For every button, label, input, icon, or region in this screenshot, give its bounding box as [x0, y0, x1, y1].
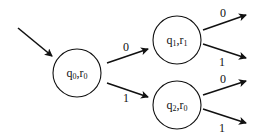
- state-subscript: 0: [84, 72, 88, 81]
- edge-label: 0: [220, 72, 226, 86]
- state-q2-r0: q2,r0: [153, 81, 201, 129]
- edge-label: 0: [123, 40, 129, 54]
- edge-label: 0: [220, 6, 226, 20]
- svg-text:q1,r1: q1,r1: [167, 33, 188, 48]
- edge-label: 1: [219, 55, 225, 69]
- state-q0-r0: q0,r0: [53, 49, 101, 97]
- state-subscript: 0: [184, 104, 188, 113]
- svg-text:q0,r0: q0,r0: [67, 66, 88, 81]
- initial-arrow: [18, 28, 52, 56]
- svg-text:q2,r0: q2,r0: [167, 98, 188, 113]
- state-subscript: 1: [184, 39, 188, 48]
- edge-label: 1: [219, 121, 225, 135]
- edge-label: 1: [123, 91, 129, 105]
- state-q1-r1: q1,r1: [153, 16, 201, 64]
- state-diagram: q0,r0 q1,r1 q2,r0 0 1 0 1 0 1: [0, 0, 263, 140]
